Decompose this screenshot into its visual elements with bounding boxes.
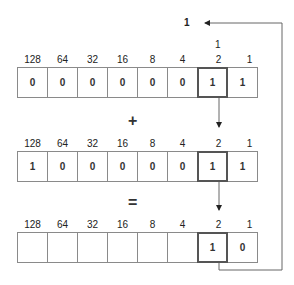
place-label: 2 <box>203 54 234 65</box>
bit-cell <box>77 232 108 263</box>
place-label: 128 <box>17 219 48 230</box>
bit-cell: 0 <box>137 151 168 182</box>
place-label: 16 <box>107 138 138 149</box>
binary-row-addend-b: 1 0 0 0 0 0 1 1 <box>17 151 258 182</box>
bit-cell-highlighted: 1 <box>197 232 228 263</box>
bit-cell: 1 <box>227 67 258 98</box>
bit-cell-highlighted: 1 <box>197 67 228 98</box>
carry-out-value: 1 <box>184 17 190 28</box>
place-label: 2 <box>203 138 234 149</box>
bit-cell-highlighted: 1 <box>197 151 228 182</box>
place-label: 8 <box>137 219 168 230</box>
bit-cell: 0 <box>107 67 138 98</box>
place-label: 128 <box>17 54 48 65</box>
place-label: 32 <box>77 138 108 149</box>
bit-cell: 0 <box>167 67 198 98</box>
carry-in-value: 1 <box>215 39 221 50</box>
bit-cell: 0 <box>107 151 138 182</box>
bit-cell: 0 <box>47 67 78 98</box>
place-label: 4 <box>167 138 198 149</box>
place-label: 64 <box>47 138 78 149</box>
plus-operator: + <box>128 112 137 130</box>
binary-row-sum: 1 0 <box>17 232 258 263</box>
place-label: 128 <box>17 138 48 149</box>
bit-cell: 0 <box>167 151 198 182</box>
equals-operator: = <box>128 194 137 212</box>
bit-cell: 0 <box>17 67 48 98</box>
bit-cell: 0 <box>227 232 258 263</box>
place-label: 1 <box>234 138 265 149</box>
binary-row-addend-a: 0 0 0 0 0 0 1 1 <box>17 67 258 98</box>
bit-cell <box>137 232 168 263</box>
place-label: 8 <box>137 54 168 65</box>
place-label: 64 <box>47 54 78 65</box>
place-label: 16 <box>107 54 138 65</box>
bit-cell <box>107 232 138 263</box>
place-label: 2 <box>203 219 234 230</box>
place-label: 16 <box>107 219 138 230</box>
bit-cell <box>47 232 78 263</box>
bit-cell: 1 <box>227 151 258 182</box>
place-label: 32 <box>77 54 108 65</box>
place-label: 64 <box>47 219 78 230</box>
place-label: 4 <box>167 219 198 230</box>
place-label: 32 <box>77 219 108 230</box>
place-label: 4 <box>167 54 198 65</box>
place-label: 1 <box>234 54 265 65</box>
bit-cell: 0 <box>47 151 78 182</box>
bit-cell: 0 <box>137 67 168 98</box>
bit-cell <box>167 232 198 263</box>
bit-cell: 1 <box>17 151 48 182</box>
bit-cell: 0 <box>77 151 108 182</box>
bit-cell <box>17 232 48 263</box>
place-label: 1 <box>234 219 265 230</box>
place-label: 8 <box>137 138 168 149</box>
bit-cell: 0 <box>77 67 108 98</box>
